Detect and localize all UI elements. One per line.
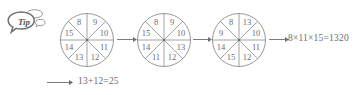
arrow-to-bottom-equation <box>47 78 73 87</box>
wheel-1-sector-label: 9 <box>88 18 102 27</box>
wheel-3-sector-label: 9 <box>214 29 228 38</box>
wheel-2-sector-label: 8 <box>149 18 163 27</box>
wheel-1: 8 9 10 11 12 13 14 15 <box>59 12 115 68</box>
result-equation: 8×11×15=1320 <box>288 33 349 43</box>
wheel-2: 8 9 10 13 12 11 14 15 <box>136 12 192 68</box>
wheel-2-graphic <box>136 12 192 68</box>
wheel-1-sector-label: 8 <box>72 18 86 27</box>
tip-label: Tip <box>12 17 36 27</box>
wheel-2-sector-label: 14 <box>139 43 153 52</box>
wheel-3-graphic <box>211 12 267 68</box>
wheel-1-sector-label: 11 <box>97 43 111 52</box>
wheel-2-sector-label: 12 <box>165 53 179 62</box>
arrow-wheel2-to-wheel3 <box>193 35 212 44</box>
wheel-3-sector-label: 8 <box>224 18 238 27</box>
wheel-3-sector-label: 10 <box>249 29 263 38</box>
wheel-2-sector-label: 9 <box>165 18 179 27</box>
wheel-2-sector-label: 13 <box>174 43 188 52</box>
wheel-1-graphic <box>59 12 115 68</box>
wheel-3-sector-label: 11 <box>249 43 263 52</box>
wheel-2-sector-label: 15 <box>139 29 153 38</box>
wheel-1-sector-label: 13 <box>72 53 86 62</box>
wheel-1-sector-label: 12 <box>88 53 102 62</box>
wheel-3: 8 13 10 11 12 15 14 9 <box>211 12 267 68</box>
arrow-wheel1-to-wheel2 <box>117 35 137 44</box>
arrow-wheel3-to-result <box>269 35 289 44</box>
wheel-3-sector-label: 13 <box>240 18 254 27</box>
wheel-2-sector-label: 11 <box>149 53 163 62</box>
diagram-canvas: Tip 8 9 10 11 12 13 14 15 8 9 10 <box>0 0 356 95</box>
bottom-equation: 13+12=25 <box>78 76 119 86</box>
wheel-3-sector-label: 15 <box>224 53 238 62</box>
wheel-3-sector-label: 14 <box>214 43 228 52</box>
wheel-2-sector-label: 10 <box>174 29 188 38</box>
tip-badge: Tip <box>7 9 49 37</box>
wheel-1-sector-label: 14 <box>62 43 76 52</box>
wheel-1-sector-label: 15 <box>62 29 76 38</box>
wheel-1-sector-label: 10 <box>97 29 111 38</box>
wheel-3-sector-label: 12 <box>240 53 254 62</box>
